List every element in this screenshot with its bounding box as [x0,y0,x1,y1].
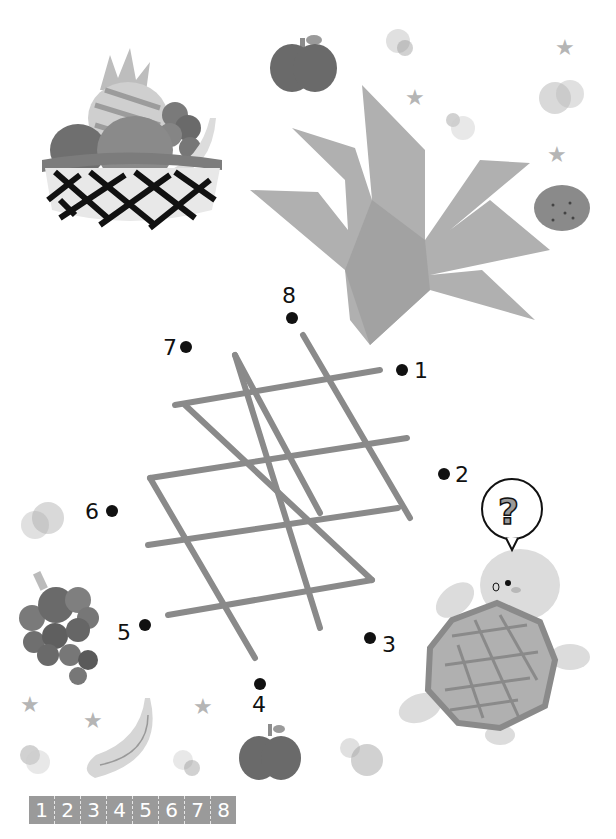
number-cell: 4 [107,796,133,824]
dot-4[interactable]: 4 [252,678,266,717]
pineapple-grid-lines [148,335,410,658]
svg-text:★: ★ [83,708,103,733]
dot-3[interactable]: 3 [364,632,396,657]
dot-1[interactable]: 1 [396,358,428,383]
svg-text:2: 2 [455,462,469,487]
dot-6[interactable]: 6 [85,499,118,524]
svg-text:3: 3 [382,632,396,657]
svg-text:★: ★ [405,85,425,110]
dot-8[interactable]: 8 [282,283,298,324]
svg-text:★: ★ [547,142,567,167]
number-cell: 8 [211,796,236,824]
fruit-basket-illustration [42,48,222,228]
dot-5[interactable]: 5 [117,619,151,645]
dot-7[interactable]: 7 [163,335,192,360]
mandarin-illustration [534,185,590,231]
number-cell: 1 [29,796,55,824]
activity-artwork: ★★★ ★★★ 1 2 3 4 5 6 7 8 [0,0,616,839]
svg-text:8: 8 [282,283,296,308]
number-cell: 3 [81,796,107,824]
svg-text:1: 1 [414,358,428,383]
number-cell: 2 [55,796,81,824]
question-mark-icon: ? [498,491,519,532]
grapes-illustration [19,571,99,685]
svg-text:6: 6 [85,499,99,524]
number-strip: 1 2 3 4 5 6 7 8 [29,796,236,824]
question-speech-bubble: ? [482,479,542,550]
number-cell: 6 [159,796,185,824]
dot-2[interactable]: 2 [438,462,469,487]
turtle-illustration [395,549,590,745]
number-cell: 5 [133,796,159,824]
svg-text:5: 5 [117,620,131,645]
svg-text:7: 7 [163,335,177,360]
svg-text:★: ★ [555,35,575,60]
apple-illustration [270,35,337,92]
number-cell: 7 [185,796,211,824]
svg-text:4: 4 [252,692,266,717]
apple-illustration-bottom [239,724,301,780]
svg-text:★: ★ [193,694,213,719]
svg-text:★: ★ [20,692,40,717]
